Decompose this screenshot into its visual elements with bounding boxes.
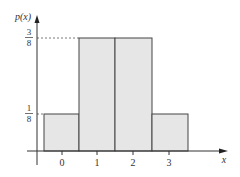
x-tick-label-2: 2 bbox=[131, 157, 136, 168]
bar-1 bbox=[79, 38, 115, 151]
y-tick-3-8-num: 3 bbox=[27, 27, 32, 37]
bar-3 bbox=[152, 114, 188, 151]
y-axis-arrow-icon bbox=[35, 15, 40, 23]
y-tick-3-8-den: 8 bbox=[27, 38, 32, 48]
x-tick-label-0: 0 bbox=[60, 157, 65, 168]
y-tick-1-8-den: 8 bbox=[27, 114, 32, 124]
y-tick-1-8-num: 1 bbox=[27, 103, 32, 113]
x-tick-label-3: 3 bbox=[167, 157, 172, 168]
bar-0 bbox=[44, 114, 79, 151]
x-axis-arrow-icon bbox=[219, 149, 228, 154]
x-tick-label-1: 1 bbox=[95, 157, 100, 168]
bar-2 bbox=[115, 38, 152, 151]
x-axis-label: x bbox=[221, 154, 227, 165]
probability-histogram: 0 1 2 3 x p(x) 3 8 1 8 bbox=[0, 0, 240, 177]
y-axis-label: p(x) bbox=[14, 11, 32, 23]
